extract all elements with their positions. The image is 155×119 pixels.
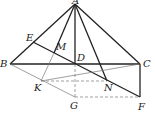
- point-label-F: F: [137, 101, 146, 112]
- segment-AB: [10, 4, 75, 64]
- segment-AN: [75, 4, 107, 81]
- segments: [10, 4, 140, 97]
- point-label-G: G: [70, 100, 78, 111]
- point-label-D: D: [76, 52, 85, 63]
- point-label-M: M: [55, 41, 67, 52]
- segment-EF: [33, 42, 140, 97]
- point-label-E: E: [25, 32, 34, 43]
- point-label-B: B: [0, 58, 7, 69]
- segment-CK: [41, 64, 140, 81]
- point-label-C: C: [143, 58, 151, 69]
- point-label-K: K: [33, 82, 42, 93]
- segment-MK: [41, 53, 54, 81]
- point-label-N: N: [103, 82, 114, 93]
- geometry-diagram: ABCDEMKNGF: [0, 0, 155, 119]
- point-label-A: A: [71, 0, 79, 6]
